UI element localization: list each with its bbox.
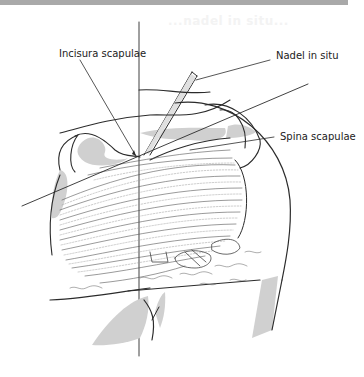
label-incisura-scapulae: Incisura scapulae [59,48,146,59]
label-spina-scapulae: Spina scapulae [280,131,356,142]
nadel-leader [196,60,270,80]
fat-tissue-squiggles [70,251,261,289]
label-nadel-in-situ: Nadel in situ [276,50,339,61]
shaded-regions [52,124,278,345]
muscle-edge [235,160,247,238]
scapula-outline [50,90,290,330]
